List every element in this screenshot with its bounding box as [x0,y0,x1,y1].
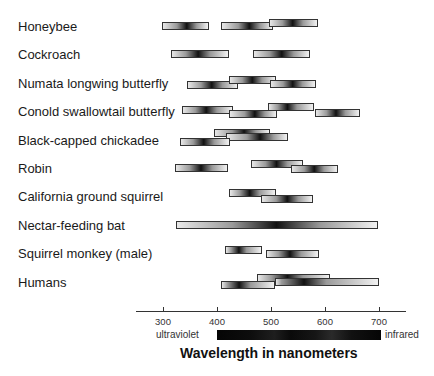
sensitivity-range-bar [176,221,378,229]
sensitivity-range-bar [226,133,288,141]
row-label: Black-capped chickadee [18,133,159,148]
ultraviolet-label: ultraviolet [156,329,199,340]
sensitivity-range-bar [266,250,319,258]
sensitivity-range-bar [261,195,313,203]
row-label: California ground squirrel [18,189,163,204]
row-label: Nectar-feeding bat [18,218,125,233]
x-tick-label: 500 [263,316,279,327]
x-axis-title: Wavelength in nanometers [180,345,358,361]
x-tick [379,307,380,311]
sensitivity-range-bar [229,76,276,84]
row-label: Cockroach [18,47,80,62]
x-tick-label: 300 [155,316,171,327]
sensitivity-range-bar [180,138,230,146]
x-tick-label: 600 [317,316,333,327]
row-label: Humans [18,275,66,290]
row-label: Squirrel monkey (male) [18,246,152,261]
sensitivity-range-bar [225,246,262,254]
x-tick [271,307,272,311]
sensitivity-range-bar [162,22,209,30]
x-tick [325,307,326,311]
sensitivity-range-bar [175,164,228,172]
sensitivity-range-bar [229,110,277,118]
sensitivity-range-bar [315,109,360,117]
sensitivity-range-bar [269,19,318,27]
row-label: Conold swallowtail butterfly [18,104,175,119]
sensitivity-range-bar [221,281,275,289]
sensitivity-range-bar [291,165,338,173]
x-axis-line [136,311,406,312]
x-tick-label: 400 [209,316,225,327]
x-tick [217,307,218,311]
sensitivity-range-bar [275,278,379,286]
spectral-sensitivity-chart: HoneybeeCockroachNumata longwing butterf… [0,0,434,376]
sensitivity-range-bar [268,103,314,111]
visible-spectrum-bar [217,330,381,340]
row-label: Robin [18,161,52,176]
sensitivity-range-bar [270,80,316,88]
infrared-label: infrared [385,329,419,340]
sensitivity-range-bar [182,106,233,114]
x-tick-label: 700 [371,316,387,327]
sensitivity-range-bar [171,50,229,58]
sensitivity-range-bar [253,50,310,58]
row-label: Numata longwing butterfly [18,76,168,91]
row-label: Honeybee [18,19,77,34]
sensitivity-range-bar [221,22,273,30]
x-tick [163,307,164,311]
